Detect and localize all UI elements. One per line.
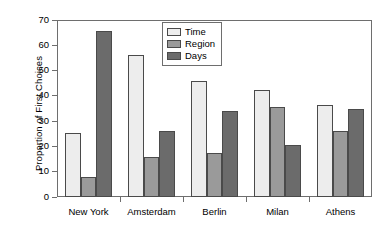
bar-berlin-days [222,111,238,197]
legend-swatch-time [167,28,181,36]
y-tick-mark [52,45,57,46]
bar-amsterdam-time [128,55,144,197]
x-axis-label: New York [68,206,108,217]
legend-item-time: Time [167,26,215,38]
y-tick-label: 10 [38,165,49,176]
legend-item-region: Region [167,38,215,50]
y-tick-label: 70 [38,14,49,25]
legend-label: Time [185,27,206,37]
bar-athens-time [317,105,333,197]
bar-new-york-region [81,177,97,197]
x-axis-tick [309,197,310,202]
bar-milan-days [285,145,301,197]
legend-swatch-days [167,52,181,60]
y-tick-mark [52,171,57,172]
y-tick-mark [52,197,57,198]
legend-label: Days [185,51,207,61]
x-axis-label: Berlin [202,206,226,217]
legend-item-days: Days [167,50,215,62]
y-tick-label: 50 [38,64,49,75]
x-axis-label: Athens [326,206,356,217]
y-tick-mark [52,70,57,71]
y-tick-mark [52,146,57,147]
x-axis-tick [183,197,184,202]
x-axis-tick [120,197,121,202]
legend-label: Region [185,39,215,49]
bar-milan-time [254,90,270,197]
y-tick-mark [52,121,57,122]
bar-amsterdam-days [159,131,175,197]
x-axis-label: Amsterdam [127,206,176,217]
bar-berlin-time [191,81,207,197]
y-tick-label: 60 [38,39,49,50]
legend-swatch-region [167,40,181,48]
y-tick-label: 20 [38,140,49,151]
y-axis-title: Proportion of First Choices [33,24,44,204]
y-tick-label: 40 [38,89,49,100]
x-axis-tick [246,197,247,202]
y-tick-mark [52,95,57,96]
bar-berlin-region [207,153,223,197]
bar-athens-region [333,131,349,197]
bar-chart: Proportion of First Choices 010203040506… [0,0,386,235]
bar-amsterdam-region [144,157,160,197]
bar-milan-region [270,107,286,197]
y-tick-mark [52,20,57,21]
y-tick-label: 0 [44,191,49,202]
bar-new-york-days [96,31,112,197]
y-tick-label: 30 [38,115,49,126]
legend: TimeRegionDays [162,22,222,66]
bar-new-york-time [65,133,81,197]
x-axis-label: Milan [266,206,289,217]
bar-athens-days [348,109,364,198]
